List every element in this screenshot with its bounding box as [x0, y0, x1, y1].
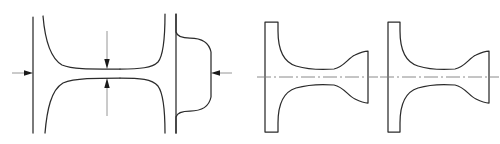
figure-3-bulb-flat-section-right: [380, 22, 499, 132]
figure-1-waist-top-arrow: [104, 31, 109, 69]
figure-1-left-arrow-head: [24, 70, 33, 76]
figure-1-waist-bottom-arrow: [104, 78, 109, 116]
figure-1-upper-right-curve: [120, 14, 165, 69]
figure-1-waist-bottom-arrow-head: [104, 78, 109, 88]
drawing-canvas: [0, 0, 500, 144]
figure-1-right-arrow-head: [211, 70, 220, 76]
figure-1-necked-waist-section: [12, 14, 232, 133]
figure-1-lower-right-curve: [120, 78, 165, 133]
figure-1-mating-part-bulge-curve: [176, 14, 211, 133]
figure-1-waist-top-arrow-head: [104, 59, 109, 69]
drawing-sheet: [0, 0, 500, 144]
figure-1-left-thickness-arrow: [12, 70, 33, 76]
figure-1-right-thickness-arrow: [211, 70, 232, 76]
figure-2-bulb-flat-section-left: [257, 22, 378, 132]
